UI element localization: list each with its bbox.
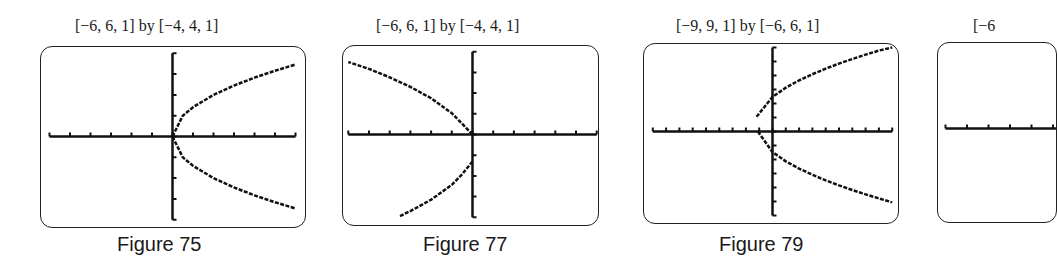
calculator-screen xyxy=(937,42,1057,223)
figure-caption: Figure 75 xyxy=(117,233,202,256)
plot xyxy=(644,44,899,224)
calculator-screen xyxy=(40,46,306,228)
plot xyxy=(41,47,306,228)
plot xyxy=(343,46,599,226)
window-title: [−9, 9, 1] by [−6, 6, 1] xyxy=(676,17,819,35)
plot xyxy=(938,43,1057,223)
window-title: [−6, 6, 1] by [−4, 4, 1] xyxy=(75,17,218,35)
figure-caption: Figure 77 xyxy=(423,233,508,256)
calculator-screen xyxy=(342,45,599,226)
window-title: [−6, 6, 1] by [−4, 4, 1] xyxy=(376,17,519,35)
figure-caption: Figure 79 xyxy=(719,233,804,256)
calculator-screen xyxy=(643,43,899,224)
window-title: [−6 xyxy=(973,17,995,35)
